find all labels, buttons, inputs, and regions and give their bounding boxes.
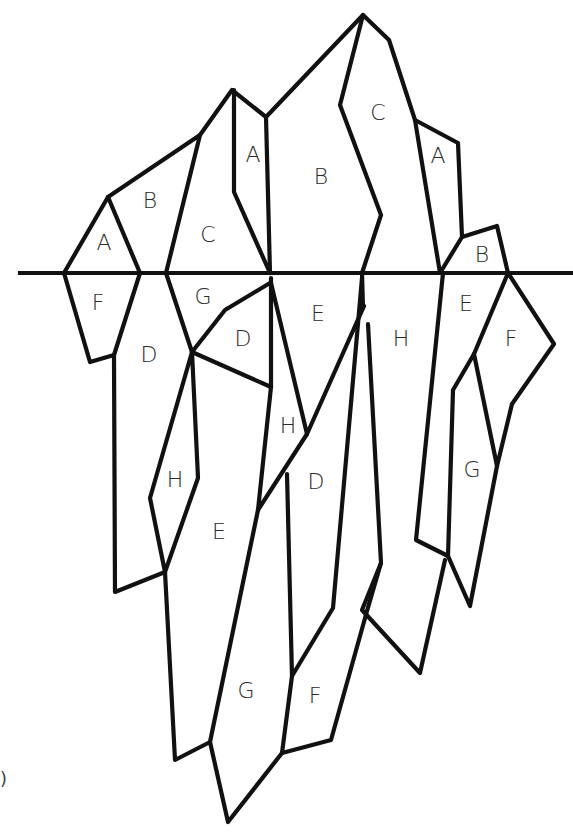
region-label: B xyxy=(143,188,157,213)
iceberg-outline-below xyxy=(64,273,554,822)
region-label: A xyxy=(245,142,260,167)
region-label: A xyxy=(430,143,445,168)
region-label: B xyxy=(314,164,328,189)
region-label: H xyxy=(280,413,297,438)
cropped-parenthesis: ) xyxy=(0,768,7,789)
region-label: D xyxy=(308,469,325,494)
region-label: B xyxy=(475,242,489,267)
region-label: E xyxy=(311,301,325,326)
region-label: H xyxy=(167,467,184,492)
region-label: D xyxy=(141,342,158,367)
region-label: G xyxy=(463,457,480,482)
region-label: F xyxy=(505,326,518,351)
region-label: E xyxy=(212,519,226,544)
region-label: A xyxy=(96,230,111,255)
region-label: D xyxy=(235,326,252,351)
region-label: G xyxy=(194,284,211,309)
region-label: E xyxy=(459,291,473,316)
region-label: H xyxy=(393,326,410,351)
region-label: F xyxy=(92,290,105,315)
region-label: F xyxy=(309,683,322,708)
iceberg-diagram: A B C A B C A B F G D D E H E F H H D G … xyxy=(0,0,573,832)
region-label: C xyxy=(370,100,385,125)
region-label: G xyxy=(237,678,254,703)
region-label: C xyxy=(200,222,215,247)
